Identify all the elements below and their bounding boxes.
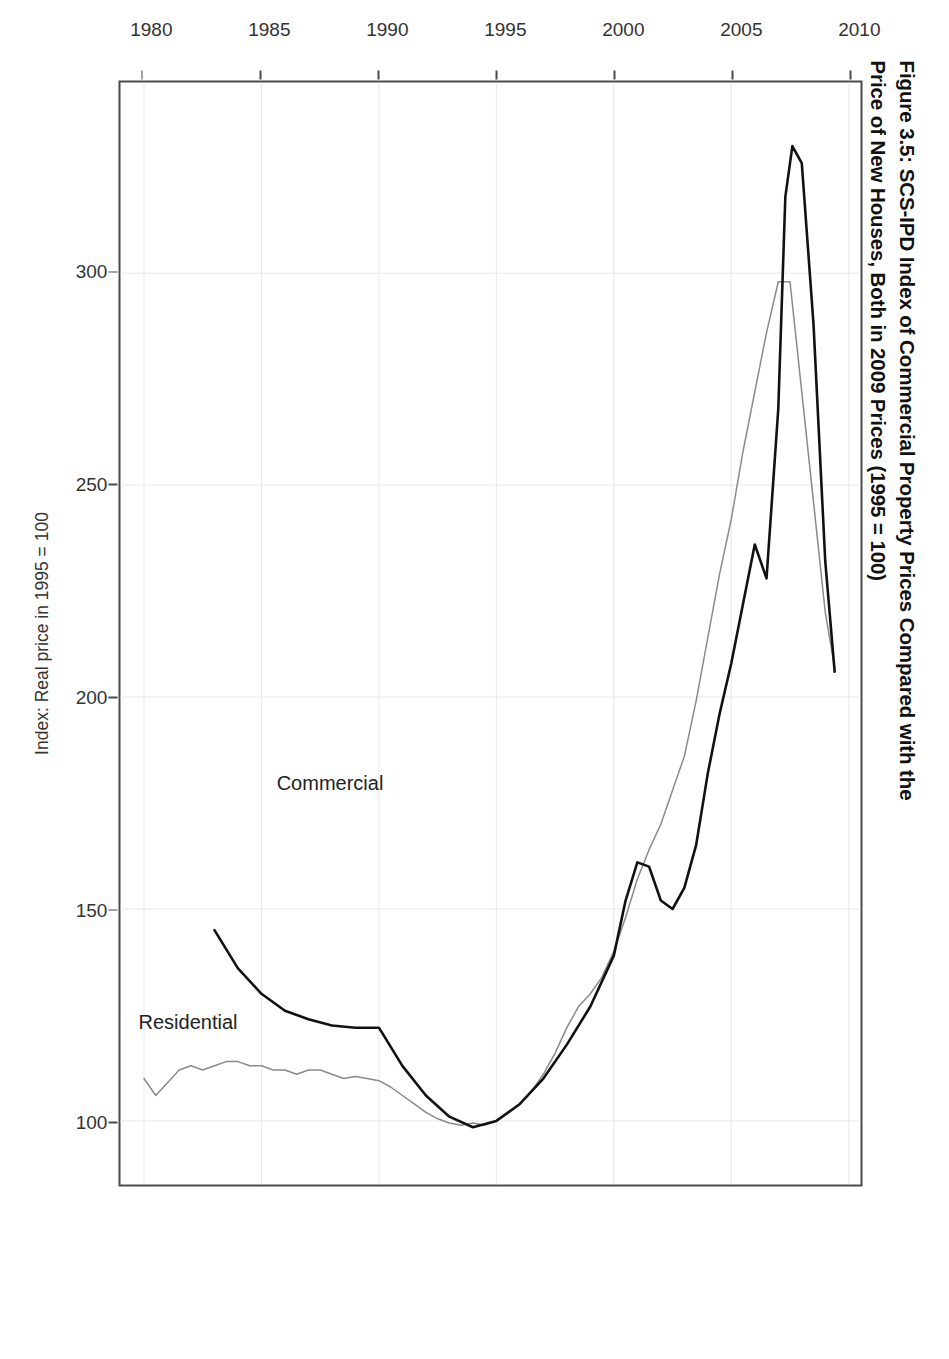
series-line-residential: [143, 281, 834, 1124]
x-tick-label: 1990: [350, 18, 408, 40]
x-tick-mark: [259, 70, 261, 79]
series-line-commercial: [214, 146, 834, 1127]
figure-container: Figure 3.5: SCS-IPD Index of Commercial …: [0, 0, 949, 1359]
y-tick-label: 300: [67, 260, 115, 282]
x-tick-mark: [495, 70, 497, 79]
x-tick-label: 2000: [586, 18, 644, 40]
series-label-residential: Residential: [138, 1011, 237, 1034]
page-canvas: Figure 3.5: SCS-IPD Index of Commercial …: [0, 0, 949, 1359]
figure-title-line-1: Figure 3.5: SCS-IPD Index of Commercial …: [892, 60, 921, 1300]
series-label-commercial: Commercial: [276, 772, 383, 795]
x-tick-label: 1980: [114, 18, 172, 40]
y-tick-label: 250: [67, 473, 115, 495]
y-tick-label: 150: [67, 899, 115, 921]
x-tick-label: 1995: [468, 18, 526, 40]
figure-title: Figure 3.5: SCS-IPD Index of Commercial …: [863, 60, 921, 1300]
x-tick-label: 2005: [704, 18, 762, 40]
figure-title-line-2: Price of New Houses, Both in 2009 Prices…: [863, 60, 892, 1300]
x-tick-mark: [731, 70, 733, 79]
y-tick-label: 200: [67, 686, 115, 708]
x-tick-mark: [613, 70, 615, 79]
x-tick-mark: [849, 70, 851, 79]
x-tick-mark: [377, 70, 379, 79]
x-tick-label: 1985: [232, 18, 290, 40]
y-tick-label: 100: [67, 1111, 115, 1133]
y-axis-title: Index: Real price in 1995 = 100: [31, 493, 52, 773]
x-tick-mark: [141, 70, 143, 79]
x-tick-label: 2010: [822, 18, 880, 40]
